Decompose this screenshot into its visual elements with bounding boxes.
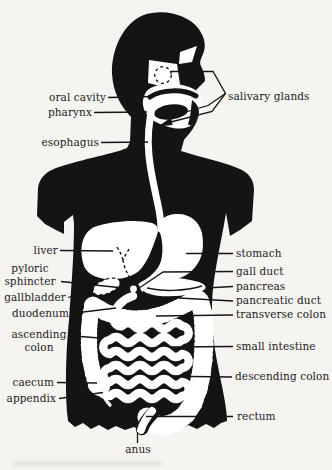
scan-artifact (12, 461, 162, 466)
leader-esophagus (101, 142, 148, 143)
label-anus: anus (120, 443, 156, 456)
label-pharynx: pharynx (48, 106, 92, 119)
leader-liver (60, 251, 113, 252)
leader-caecum (57, 383, 97, 384)
label-gall-duct: gall duct (236, 265, 284, 278)
label-esophagus: esophagus (42, 136, 99, 149)
label-stomach: stomach (236, 247, 282, 260)
label-small-intestine: small intestine (236, 340, 316, 353)
digestive-system-diagram: oral cavity pharynx salivary glands esop… (0, 0, 332, 470)
leader-pharynx (94, 112, 147, 113)
label-pyloric-sphincter: pyloric sphincter (2, 262, 58, 287)
label-ascending-colon: ascending colon (11, 328, 67, 353)
label-pancreas: pancreas (236, 280, 285, 293)
label-rectum: rectum (237, 410, 276, 423)
label-pancreatic-duct: pancreatic duct (236, 294, 321, 307)
label-transverse-colon: transverse colon (236, 308, 326, 321)
label-duodenum: duodenum (12, 307, 69, 320)
label-appendix: appendix (7, 392, 56, 405)
leader-small-intestine (172, 347, 233, 348)
label-oral-cavity: oral cavity (49, 91, 106, 104)
label-descending-colon: descending colon (235, 370, 329, 383)
label-salivary-glands: salivary glands (228, 90, 310, 103)
label-gallbladder: gallbladder (4, 291, 66, 304)
label-caecum: caecum (12, 376, 54, 389)
leader-descending-colon (191, 377, 232, 378)
label-liver: liver (34, 244, 58, 257)
